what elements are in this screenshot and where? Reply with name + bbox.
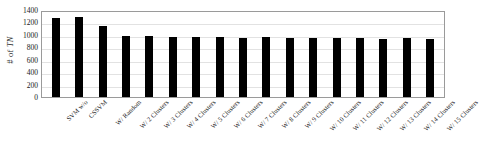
y-axis-tick-label: 200 — [27, 82, 38, 90]
bar-slot — [208, 12, 231, 97]
x-axis-tick-label: SVM w/o — [66, 99, 89, 122]
y-axis-tick-label: 800 — [27, 45, 38, 53]
bar[interactable] — [145, 36, 153, 97]
bar-slot — [114, 12, 137, 97]
bar[interactable] — [426, 39, 434, 97]
bar[interactable] — [379, 39, 387, 97]
bar[interactable] — [216, 37, 224, 97]
bars-layer — [42, 12, 444, 97]
plot-area — [41, 11, 445, 98]
bar-slot — [278, 12, 301, 97]
bar-slot — [395, 12, 418, 97]
y-axis-tick-label: 600 — [27, 57, 38, 65]
y-axis-tick-label: 400 — [27, 69, 38, 77]
bar-slot — [372, 12, 395, 97]
bar[interactable] — [286, 38, 294, 97]
y-axis-tick-label: 0 — [34, 94, 38, 102]
bar[interactable] — [169, 37, 177, 97]
bar[interactable] — [262, 37, 270, 97]
bar[interactable] — [192, 37, 200, 97]
bar-slot — [138, 12, 161, 97]
x-axis-tick-label: W/ Random — [114, 99, 142, 127]
bar[interactable] — [75, 17, 83, 97]
bar[interactable] — [52, 18, 60, 97]
bar-slot — [184, 12, 207, 97]
bar[interactable] — [356, 38, 364, 97]
y-axis-tick-label: 1400 — [23, 7, 38, 15]
bar-slot — [325, 12, 348, 97]
y-axis-tick-label: 1200 — [23, 20, 38, 28]
bar[interactable] — [309, 38, 317, 97]
bar-slot — [419, 12, 442, 97]
bar-slot — [91, 12, 114, 97]
bar-slot — [161, 12, 184, 97]
bar[interactable] — [122, 36, 130, 97]
bar-slot — [255, 12, 278, 97]
bar-slot — [67, 12, 90, 97]
y-axis-tick-labels: 0200400600800100012001400 — [14, 11, 40, 98]
bar-slot — [44, 12, 67, 97]
x-axis-tick-labels: SVM w/oCSSVMW/ RandomW/ 2 ClustersW/ 3 C… — [41, 99, 445, 149]
x-axis-tick-label: CSSVM — [88, 99, 109, 120]
bar[interactable] — [99, 26, 107, 97]
bar[interactable] — [403, 38, 411, 97]
bar[interactable] — [333, 38, 341, 97]
bar[interactable] — [239, 38, 247, 97]
bar-slot — [301, 12, 324, 97]
bar-slot — [348, 12, 371, 97]
y-axis-tick-label: 1000 — [23, 32, 38, 40]
bar-slot — [231, 12, 254, 97]
